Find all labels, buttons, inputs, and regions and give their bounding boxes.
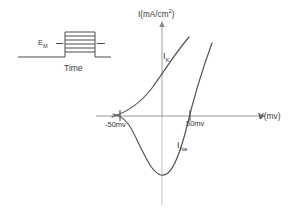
pulse-step-levels (65, 32, 95, 52)
iv-curve-figure (0, 0, 300, 214)
x-axis-label: V(mv) (258, 112, 281, 121)
y-axis-arrowhead (159, 21, 165, 27)
time-label: Time (64, 64, 83, 73)
em-label: EM (38, 39, 48, 49)
x-tick-label--50mv: -50mv (105, 121, 126, 129)
voltage-step-inset (18, 32, 111, 57)
ik-curve (112, 37, 189, 117)
figure-canvas: EM Time I(mA/cm2) V(mv) IK INa -50mv 50m… (0, 0, 300, 214)
ik-series-label: IK (163, 52, 170, 63)
ina-series-label: INa (177, 141, 187, 152)
y-axis-label: I(mA/cm2) (138, 9, 174, 19)
x-tick-label-50mv: 50mv (186, 120, 204, 128)
